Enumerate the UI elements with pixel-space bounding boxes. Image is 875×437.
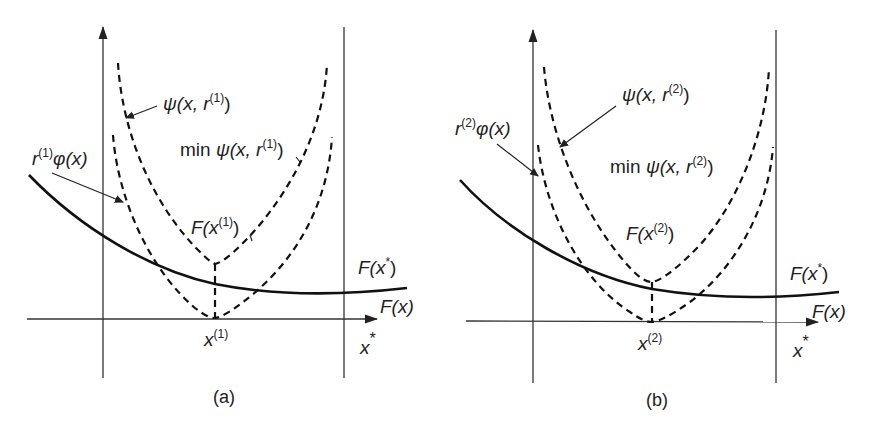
psi-pointer-arrow	[560, 106, 616, 147]
psi-label: ψ(x, r(2))	[622, 82, 690, 105]
F-xk-label: F(x(2))	[626, 221, 674, 244]
penalty-term-label: r(1)φ(x)	[32, 146, 88, 169]
F-xk-pointer	[250, 235, 252, 241]
xstar-label: x*	[792, 333, 809, 361]
panel-a: ψ(x, r(1)) r(1)φ(x) min ψ(x, r(1)) F(x(1…	[27, 27, 414, 407]
x-axis	[466, 321, 818, 322]
min-psi-label: min ψ(x, r(1))	[180, 137, 283, 160]
F-xstar-label: F(x*)	[358, 255, 396, 278]
min-psi-pointer	[296, 157, 300, 162]
F-x-label: F(x)	[812, 301, 846, 322]
min-psi-label: min ψ(x, r(2))	[610, 154, 713, 177]
panel-b-caption: (b)	[646, 390, 668, 410]
psi-label: ψ(x, r(1))	[163, 91, 231, 114]
penalty-method-figure: ψ(x, r(1)) r(1)φ(x) min ψ(x, r(1)) F(x(1…	[0, 0, 875, 437]
F-x-label: F(x)	[380, 296, 414, 317]
penalty-term-label: r(2)φ(x)	[455, 116, 511, 139]
penalty-pointer-arrow	[497, 144, 538, 176]
xstar-label: x*	[359, 330, 376, 358]
panel-a-caption: (a)	[213, 387, 235, 407]
penalty-pointer-arrow	[52, 173, 123, 202]
F-xk-label: F(x(1))	[191, 215, 239, 238]
panel-b: ψ(x, r(2)) r(2)φ(x) min ψ(x, r(2)) F(x(2…	[455, 30, 846, 410]
xk-tick-label: x(1)	[203, 327, 228, 350]
xk-tick-label: x(2)	[637, 331, 662, 354]
F-xstar-label: F(x*)	[790, 261, 828, 284]
psi-pointer-arrow	[126, 106, 157, 118]
